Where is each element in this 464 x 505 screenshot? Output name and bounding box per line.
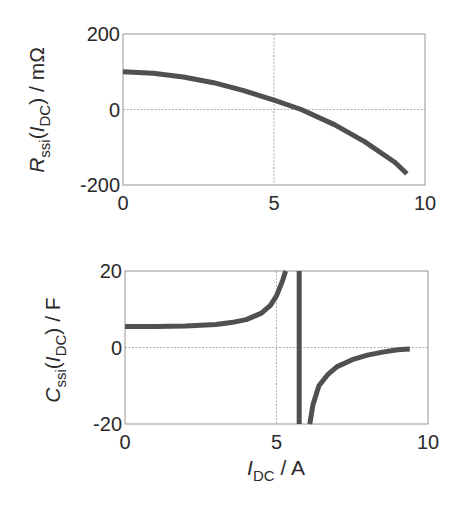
data-line (125, 271, 286, 327)
plot-resistance: -2000200 0510 Rssi(IDC) / mΩ (25, 23, 436, 214)
x-tick-label: 0 (119, 431, 130, 453)
y-tick-label: 20 (100, 260, 122, 282)
x-tick-label: 0 (117, 192, 128, 214)
y-tick-label: 0 (109, 99, 120, 121)
y-tick-label: 0 (111, 337, 122, 359)
y-tick-label: 200 (87, 23, 120, 45)
y-axis-label-resistance: Rssi(IDC) / mΩ (25, 47, 53, 173)
data-line-resistance (123, 72, 407, 174)
y-tick-labels: -2000200 (80, 23, 120, 196)
y-axis-label-capacitance: Cssi(IDC) / F (41, 297, 69, 402)
y-tick-label: -20 (93, 413, 122, 435)
x-tick-label: 10 (414, 192, 436, 214)
y-tick-label: -200 (80, 174, 120, 196)
x-tick-label: 5 (268, 192, 279, 214)
figure: -2000200 0510 Rssi(IDC) / mΩ -20020 0510… (0, 0, 464, 505)
x-axis-label: IDC / A (247, 456, 305, 484)
data-line (310, 349, 410, 424)
x-tick-label: 10 (417, 431, 439, 453)
x-tick-labels: 0510 (117, 192, 436, 214)
y-tick-labels: -20020 (93, 260, 122, 435)
x-tick-labels: 0510 (119, 431, 439, 453)
grid-lines (123, 34, 425, 185)
x-tick-label: 5 (271, 431, 282, 453)
plot-capacitance: -20020 0510 Cssi(IDC) / F IDC / A (41, 260, 439, 484)
